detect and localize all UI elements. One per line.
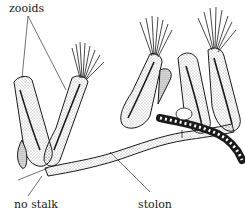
label-zooids: zooids [9,3,44,14]
zooid-center [121,16,172,128]
tentacle-crown [72,42,104,80]
label-no-stalk: no stalk [14,199,58,210]
label-stolon: stolon [138,199,172,210]
zooid-center-left [44,42,104,166]
zooid-illustration [0,0,245,213]
tentacle-crown [198,7,236,52]
tentacle-crown [140,16,172,57]
